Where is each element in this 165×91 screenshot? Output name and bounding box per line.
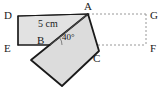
vertex-label-C: C (93, 53, 100, 64)
vertex-label-G: G (150, 10, 158, 21)
vertex-label-D: D (4, 10, 12, 21)
vertex-label-E: E (4, 43, 11, 54)
vertex-label-A: A (84, 1, 92, 12)
vertex-label-B: B (37, 35, 44, 46)
vertex-label-F: F (150, 43, 156, 54)
length-label-5cm: 5 cm (38, 19, 58, 29)
figure-svg (0, 0, 165, 91)
geometry-diagram-canvas: D A G E B C F 5 cm 40° (0, 0, 165, 91)
angle-label-40deg: 40° (62, 33, 75, 42)
